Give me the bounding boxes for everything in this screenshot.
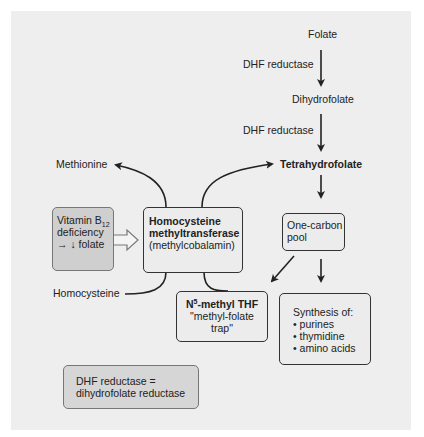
enzyme-line2: methyltransferase: [149, 227, 242, 239]
label-folate: Folate: [308, 28, 337, 40]
n5-line1: N5-methyl THF: [177, 298, 267, 310]
label-dhf-reductase-2: DHF reductase: [243, 124, 314, 136]
n5-line3: trap": [177, 322, 267, 334]
enzyme-line1: Homocysteine: [149, 215, 242, 227]
curve-n5: [204, 272, 228, 291]
curve-homocysteine: [125, 272, 166, 294]
label-methionine: Methionine: [56, 158, 107, 170]
synthesis-title: Synthesis of:: [293, 306, 370, 318]
one-carbon-pool-box: One-carbon pool: [282, 213, 345, 251]
pool-line2: pool: [287, 231, 344, 243]
label-homocysteine: Homocysteine: [53, 287, 120, 299]
legend-line1: DHF reductase =: [76, 375, 198, 387]
label-dhf-reductase-1: DHF reductase: [243, 58, 314, 70]
label-tetrahydrofolate: Tetrahydrofolate: [280, 158, 362, 170]
arrow-to-methionine: [116, 165, 166, 207]
legend-box: DHF reductase = dihydrofolate reductase: [63, 365, 199, 409]
label-dihydrofolate: Dihydrofolate: [292, 93, 354, 105]
pool-line1: One-carbon: [287, 219, 344, 231]
enzyme-line3: (methylcobalamin): [149, 239, 242, 251]
vitamin-line3: → ↓ folate: [57, 238, 113, 250]
n5-line2: "methyl-folate: [177, 310, 267, 322]
arrow-pool-to-n5: [272, 256, 294, 281]
vitamin-line1: Vitamin B12: [57, 214, 113, 226]
enzyme-box: Homocysteine methyltransferase (methylco…: [143, 207, 243, 273]
legend-line2: dihydrofolate reductase: [76, 387, 198, 399]
vitamin-b12-box: Vitamin B12 deficiency → ↓ folate: [52, 207, 114, 271]
n5-methyl-thf-box: N5-methyl THF "methyl-folate trap": [176, 291, 268, 342]
synthesis-item: • purines: [293, 318, 370, 330]
synthesis-box: Synthesis of: • purines • thymidine • am…: [279, 293, 371, 365]
synthesis-item: • amino acids: [293, 342, 370, 354]
arrow-to-thf: [202, 164, 272, 207]
synthesis-item: • thymidine: [293, 330, 370, 342]
hollow-arrow-vitamin: [113, 230, 138, 250]
